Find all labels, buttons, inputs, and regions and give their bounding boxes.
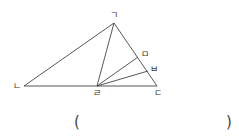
- answer-open-paren: (: [74, 115, 80, 130]
- label-point-mieum: ㅁ: [141, 50, 149, 59]
- label-point-rieul: ㄹ: [93, 89, 101, 98]
- label-point-nieun: ㄴ: [13, 82, 21, 91]
- label-point-giyeok: ㄱ: [110, 11, 118, 20]
- answer-blank[interactable]: [84, 115, 224, 133]
- answer-close-paren: ): [226, 115, 232, 130]
- segment-giyeok-digeut: [114, 23, 157, 86]
- label-point-digeut: ㄷ: [154, 89, 162, 98]
- label-point-bieup: ㅂ: [150, 65, 158, 74]
- segment-giyeok-nieun: [24, 23, 114, 86]
- segment-rieul-mieum: [97, 57, 138, 86]
- segment-giyeok-rieul: [97, 23, 114, 86]
- segment-rieul-bieup: [97, 71, 148, 86]
